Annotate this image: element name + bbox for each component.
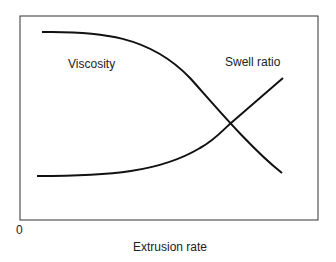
origin-label: 0 [16, 223, 23, 237]
swell-ratio-label: Swell ratio [225, 55, 280, 69]
chart-plot [0, 0, 336, 262]
plot-frame [20, 16, 318, 220]
viscosity-label: Viscosity [68, 57, 115, 71]
swell-ratio-curve [37, 78, 283, 176]
viscosity-curve [42, 32, 282, 173]
x-axis-label: Extrusion rate [133, 240, 207, 254]
